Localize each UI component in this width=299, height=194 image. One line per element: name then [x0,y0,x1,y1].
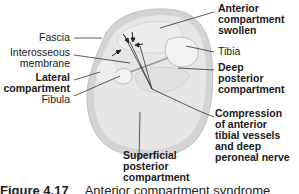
figure-number: Figure 4.17 [0,183,69,194]
figure-title: Anterior compartment syndrome [85,183,271,194]
label-tibia: Tibia [218,46,240,58]
fibula-bone [114,69,132,84]
label-fascia: Fascia [20,32,70,44]
label-compression-line5: peroneal nerve [215,152,290,164]
label-fibula: Fibula [0,94,70,106]
figure-caption: Figure 4.17Anterior compartment syndrome [0,184,299,194]
label-interosseous-line2: membrane [0,58,70,70]
label-anterior-line3: swollen [218,25,257,37]
label-superficial-line3: compartment [123,172,190,184]
label-deep-line3: compartment [218,84,285,96]
tibia-bone [165,37,198,67]
